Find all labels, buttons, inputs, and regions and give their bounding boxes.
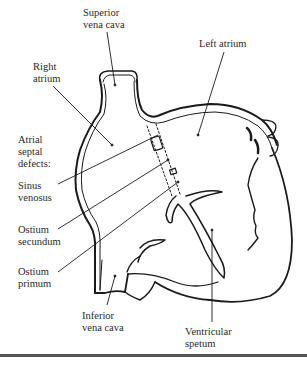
label-atrial-septal-defects: Atrial septal defects: bbox=[18, 134, 51, 170]
label-right-atrium: Right atrium bbox=[33, 61, 60, 85]
leader-superior-vena-cava bbox=[107, 32, 115, 85]
label-line: vena cava bbox=[82, 322, 124, 334]
leader-left-atrium bbox=[198, 52, 224, 135]
label-line: Ostium bbox=[18, 266, 51, 278]
ostium-secundum-defect bbox=[170, 168, 177, 175]
heart-diagram: Superior vena cava Right atrium Left atr… bbox=[0, 0, 307, 366]
label-line: Sinus bbox=[18, 180, 52, 192]
tricuspid-valve bbox=[138, 240, 165, 262]
label-line: Ventricular bbox=[185, 326, 232, 338]
label-line: Inferior bbox=[82, 310, 124, 322]
label-line: atrium bbox=[33, 73, 60, 85]
leader-ostium-primum bbox=[58, 182, 178, 272]
label-inferior-vena-cava: Inferior vena cava bbox=[82, 310, 124, 334]
label-line: primum bbox=[18, 278, 51, 290]
label-line: secundum bbox=[18, 236, 61, 248]
label-superior-vena-cava: Superior vena cava bbox=[83, 7, 125, 31]
label-line: venosus bbox=[18, 192, 52, 204]
label-line: vena cava bbox=[83, 19, 125, 31]
ventricular-septum bbox=[166, 191, 225, 278]
label-left-atrium: Left atrium bbox=[199, 38, 247, 50]
label-line: Superior bbox=[83, 7, 125, 19]
label-ostium-primum: Ostium primum bbox=[18, 266, 51, 290]
label-line: defects: bbox=[18, 158, 51, 170]
label-line: Ostium bbox=[18, 224, 61, 236]
leader-sinus-venosus bbox=[58, 135, 158, 184]
label-line: Left atrium bbox=[199, 38, 247, 50]
label-line: Right bbox=[33, 61, 60, 73]
pulmonary-vein-lower bbox=[268, 137, 278, 156]
label-ostium-secundum: Ostium secundum bbox=[18, 224, 61, 248]
label-line: septal bbox=[18, 146, 51, 158]
label-line: spetum bbox=[185, 338, 232, 350]
label-ventricular-septum: Ventricular spetum bbox=[185, 326, 232, 350]
bottom-rule-divider bbox=[0, 354, 307, 357]
label-sinus-venosus: Sinus venosus bbox=[18, 180, 52, 204]
leader-ostium-secundum bbox=[58, 160, 168, 229]
label-line: Atrial bbox=[18, 134, 51, 146]
